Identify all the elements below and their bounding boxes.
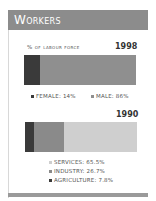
stacked-bar-1998 xyxy=(24,55,136,85)
legend-item-male: MALE: 86% xyxy=(91,93,129,99)
bar-segment-agriculture xyxy=(25,122,34,152)
legend-swatch-male-icon xyxy=(91,95,94,98)
legend-item-industry: INDUSTRY: 26.7% xyxy=(49,168,105,174)
year-label-1990: 1990 xyxy=(116,110,138,119)
legend-item-agriculture: AGRICULTURE: 7.8% xyxy=(49,177,113,183)
bar-segment-industry xyxy=(34,122,64,152)
year-label-1998: 1998 xyxy=(115,42,137,51)
bottom-rule xyxy=(8,193,148,197)
bar-segment-male xyxy=(40,55,136,85)
legend-swatch-industry-icon xyxy=(49,170,52,173)
bar-segment-female xyxy=(24,55,40,85)
bar-segment-services xyxy=(64,122,137,152)
header-bar: Workers xyxy=(8,10,148,30)
chart-subtitle: % of labour force xyxy=(27,44,80,50)
legend-swatch-services-icon xyxy=(49,161,52,164)
legend-swatch-female-icon xyxy=(31,95,34,98)
legend-label: INDUSTRY: 26.7% xyxy=(54,168,105,174)
legend-swatch-agriculture-icon xyxy=(49,179,52,182)
legend-item-services: SERVICES: 65.5% xyxy=(49,159,105,165)
page-title: Workers xyxy=(14,13,61,27)
legend-label: AGRICULTURE: 7.8% xyxy=(54,177,113,183)
legend-label: SERVICES: 65.5% xyxy=(54,159,105,165)
legend-label: MALE: 86% xyxy=(96,93,129,99)
stacked-bar-1990 xyxy=(25,122,137,152)
legend-item-female: FEMALE: 14% xyxy=(31,93,76,99)
legend-label: FEMALE: 14% xyxy=(36,93,76,99)
